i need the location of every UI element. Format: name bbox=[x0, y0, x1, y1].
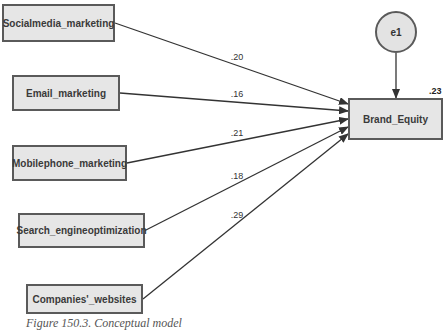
node-label: Mobilephone_marketing bbox=[12, 158, 127, 169]
path-coefficient-cw: .29 bbox=[231, 210, 244, 220]
error-label: e1 bbox=[390, 27, 401, 38]
node-label: Email_marketing bbox=[26, 88, 106, 99]
node-em: Email_marketing bbox=[12, 75, 120, 111]
path-coefficient-seo: .18 bbox=[231, 171, 244, 181]
node-brand-equity: Brand_Equity bbox=[348, 98, 443, 140]
node-label: Companies'_websites bbox=[32, 294, 136, 305]
path-coefficient-mpm: .21 bbox=[231, 128, 244, 138]
node-mpm: Mobilephone_marketing bbox=[12, 145, 127, 181]
node-seo: Search_engineoptimization bbox=[18, 213, 145, 248]
node-smm: Socialmedia_marketing bbox=[2, 4, 115, 42]
path-coefficient-em: .16 bbox=[231, 89, 244, 99]
path-coefficient-smm: .20 bbox=[231, 52, 244, 62]
error-term-e1: e1 bbox=[375, 11, 417, 53]
node-label: Search_engineoptimization bbox=[16, 225, 146, 236]
figure-caption: Figure 150.3. Conceptual model bbox=[26, 316, 182, 331]
node-cw: Companies'_websites bbox=[26, 284, 143, 314]
node-label: Brand_Equity bbox=[363, 114, 428, 125]
path-arrow-mpm bbox=[127, 119, 348, 163]
node-label: Socialmedia_marketing bbox=[3, 18, 115, 29]
r-squared-value: .23 bbox=[429, 86, 442, 96]
